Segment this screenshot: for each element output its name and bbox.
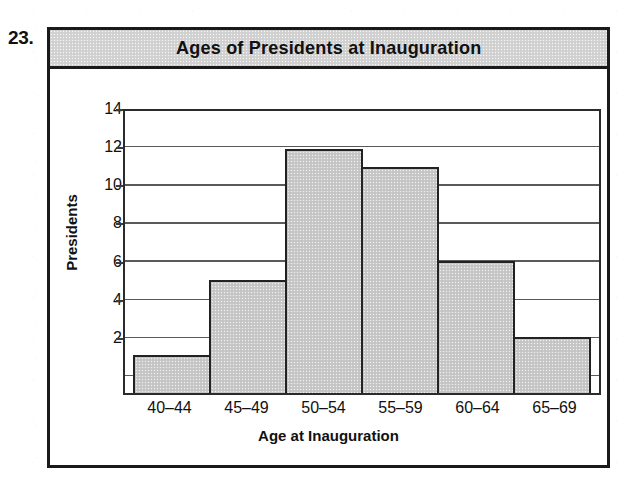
bar-65-69[interactable]: [513, 337, 591, 393]
y-tick-mark: [116, 147, 123, 149]
x-tick-label: 65–69: [516, 399, 593, 417]
bar-60-64[interactable]: [437, 261, 515, 393]
x-tick-label: 45–49: [208, 399, 285, 417]
bar-55-59[interactable]: [361, 167, 439, 393]
y-tick-mark: [116, 185, 123, 187]
bar-45-49[interactable]: [209, 280, 287, 393]
chart-title: Ages of Presidents at Inauguration: [176, 37, 481, 59]
y-tick-mark: [116, 338, 123, 340]
x-tick-label: 50–54: [285, 399, 362, 417]
x-tick-label: 60–64: [439, 399, 516, 417]
chart-title-banner: Ages of Presidents at Inauguration: [50, 30, 607, 69]
figure-frame: Ages of Presidents at Inauguration Presi…: [47, 27, 610, 468]
y-tick-mark: [116, 223, 123, 225]
bar-40-44[interactable]: [133, 355, 211, 393]
y-tick-mark: [116, 262, 123, 264]
question-number: 23.: [8, 27, 34, 49]
x-axis-tick-labels: 40–44 45–49 50–54 55–59 60–64 65–69: [131, 399, 593, 417]
x-axis-title: Age at Inauguration: [50, 427, 607, 444]
bar-50-54[interactable]: [285, 149, 363, 393]
x-tick-label: 40–44: [131, 399, 208, 417]
x-tick-label: 55–59: [362, 399, 439, 417]
chart-body: Presidents 14 12 10 8 6 4 2: [50, 72, 607, 465]
y-axis-title: Presidents: [63, 173, 80, 293]
y-tick-mark: [116, 300, 123, 302]
histogram-bars: [133, 111, 591, 393]
plot-area: [123, 109, 601, 395]
y-tick-mark: [116, 109, 123, 111]
y-axis-tick-labels: 14 12 10 8 6 4 2: [80, 72, 122, 395]
